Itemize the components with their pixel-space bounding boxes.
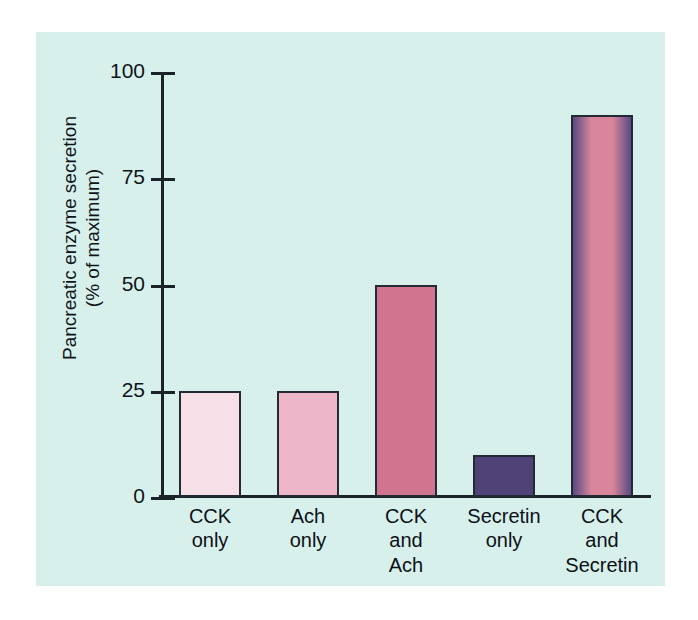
x-label-line: CCK (553, 504, 651, 528)
bar-cck-only (179, 391, 241, 497)
bar-ach-only (277, 391, 339, 497)
x-label-line: Ach (259, 504, 357, 528)
chart-panel: Pancreatic enzyme secretion (% of maximu… (36, 32, 665, 586)
x-label-line: and (553, 528, 651, 552)
y-tick-label: 50 (122, 272, 145, 296)
x-label-line: only (455, 528, 553, 552)
y-tick-mark (151, 178, 175, 181)
x-label-line: Secretin (553, 553, 651, 577)
y-tick-label: 25 (122, 378, 145, 402)
bar-cck-and-ach (375, 285, 437, 498)
y-tick-mark (151, 285, 175, 288)
x-label-ach-only: Achonly (259, 504, 357, 553)
bar-secretin-only (473, 455, 535, 498)
x-label-line: CCK (161, 504, 259, 528)
x-label-line: CCK (357, 504, 455, 528)
y-tick-mark (151, 72, 175, 75)
x-label-line: only (161, 528, 259, 552)
x-label-cck-and-ach: CCKandAch (357, 504, 455, 577)
bar-cck-and-secretin (571, 115, 633, 498)
chart-figure: Pancreatic enzyme secretion (% of maximu… (0, 0, 698, 620)
x-label-line: Ach (357, 553, 455, 577)
y-axis-title-line-1: Pancreatic enzyme secretion (59, 116, 82, 360)
y-axis-title-line-2: (% of maximum) (82, 169, 105, 307)
x-label-cck-only: CCKonly (161, 504, 259, 553)
plot-area: 0255075100 CCKonlyAchonlyCCKandAchSecret… (161, 72, 651, 497)
y-axis-title: Pancreatic enzyme secretion (% of maximu… (54, 88, 110, 388)
y-tick-mark (151, 391, 175, 394)
x-label-line: only (259, 528, 357, 552)
y-tick-label: 100 (110, 59, 145, 83)
x-label-line: and (357, 528, 455, 552)
x-label-line: Secretin (455, 504, 553, 528)
y-tick-label: 75 (122, 165, 145, 189)
y-tick-mark (151, 497, 175, 500)
x-label-cck-and-secretin: CCKandSecretin (553, 504, 651, 577)
x-label-secretin-only: Secretinonly (455, 504, 553, 553)
y-tick-label: 0 (133, 484, 145, 508)
